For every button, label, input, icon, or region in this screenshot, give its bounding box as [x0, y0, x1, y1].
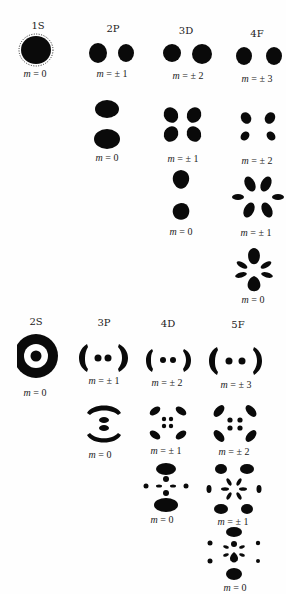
- pattern-2p-m1: [88, 42, 138, 66]
- pattern-3d-m0: [168, 168, 194, 224]
- pattern-3p-m0: [84, 400, 124, 448]
- orbital-diagram: 1S 2P 3D 4F m = 0 m = ± 1 m = ± 2 m = ± …: [0, 0, 286, 594]
- m-label: m = 0: [96, 152, 119, 163]
- orbital-label-3d: 3D: [179, 25, 193, 36]
- pattern-4f-m3: [234, 46, 286, 68]
- m-label: m = 0: [224, 582, 247, 593]
- orbital-label-2p: 2P: [106, 23, 119, 34]
- m-label: m = ± 1: [218, 516, 249, 527]
- pattern-2p-m0: [93, 98, 123, 150]
- m-label: m = ± 1: [241, 227, 272, 238]
- pattern-5f-m3: [208, 346, 264, 376]
- m-label: m = ± 2: [242, 155, 273, 166]
- m-label: m = ± 2: [219, 446, 250, 457]
- m-label: m = ± 1: [168, 153, 199, 164]
- m-label: m = ± 2: [173, 70, 204, 81]
- orbital-label-3p: 3P: [97, 317, 110, 328]
- pattern-3d-m2: [162, 42, 214, 66]
- m-label: m = ± 1: [97, 68, 128, 79]
- m-label: m = 0: [24, 68, 47, 79]
- m-label: m = 0: [24, 387, 47, 398]
- m-label: m = ± 3: [221, 379, 252, 390]
- m-label: m = ± 2: [152, 377, 183, 388]
- pattern-2s-m0: [14, 334, 62, 382]
- orbital-label-4d: 4D: [161, 318, 175, 329]
- m-label: m = 0: [170, 226, 193, 237]
- pattern-4f-m1: [232, 176, 284, 220]
- orbital-label-2s: 2S: [29, 316, 42, 327]
- m-label: m = ± 1: [89, 375, 120, 386]
- pattern-3p-m1: [78, 343, 130, 373]
- m-label: m = ± 1: [151, 445, 182, 456]
- pattern-4f-m2: [238, 110, 278, 144]
- pattern-5f-m1: [206, 463, 262, 515]
- m-label: m = 0: [242, 294, 265, 305]
- m-label: m = ± 3: [242, 73, 273, 84]
- orbital-label-5f: 5F: [231, 319, 244, 330]
- pattern-5f-m2: [210, 403, 260, 447]
- m-label: m = 0: [89, 449, 112, 460]
- pattern-4d-m0: [142, 462, 190, 514]
- pattern-4d-m1: [147, 405, 189, 443]
- m-label: m = 0: [151, 514, 174, 525]
- pattern-4d-m2: [145, 348, 193, 374]
- orbital-label-4f: 4F: [250, 28, 263, 39]
- pattern-4f-m0: [234, 246, 274, 294]
- pattern-1s-m0: [16, 34, 56, 66]
- orbital-label-1s: 1S: [31, 20, 44, 31]
- pattern-3d-m1: [162, 106, 204, 144]
- pattern-5f-m0: [207, 527, 261, 581]
